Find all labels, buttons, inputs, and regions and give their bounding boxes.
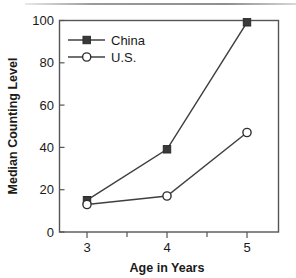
series-us-point [243,128,251,136]
x-axis-tick-labels: 3 4 5 [83,240,250,255]
series-china [83,19,250,204]
legend-marker-square-icon [83,36,90,43]
y-axis-tick-labels: 100 80 60 40 20 0 [32,13,54,240]
legend-item-us: U.S. [68,50,136,65]
legend-label-china: China [111,33,146,48]
y-tick-label: 60 [40,98,54,113]
chart-legend: China U.S. [68,33,146,65]
line-chart-canvas: 100 80 60 40 20 0 3 4 5 Age in Years Med… [0,0,296,278]
x-tick-label: 3 [83,240,90,255]
chart-figure: 100 80 60 40 20 0 3 4 5 Age in Years Med… [0,0,296,278]
y-tick-label: 20 [40,182,54,197]
y-axis-ticks [60,21,65,233]
y-tick-label: 0 [47,225,54,240]
y-tick-label: 100 [32,13,54,28]
x-tick-label: 4 [163,240,170,255]
y-axis-title: Median Counting Level [6,58,20,195]
series-us-point [83,200,91,208]
x-axis-ticks [87,232,247,238]
y-tick-label: 80 [40,55,54,70]
x-tick-label: 5 [243,240,250,255]
series-us-point [163,192,171,200]
legend-item-china: China [68,33,146,48]
series-us [83,128,251,208]
legend-marker-circle-icon [83,53,91,61]
series-china-line [87,22,247,200]
series-china-point [243,19,250,26]
page-rule-decoration [25,3,296,5]
x-axis-title: Age in Years [130,261,205,275]
y-tick-label: 40 [40,140,54,155]
legend-label-us: U.S. [111,50,136,65]
series-china-point [163,146,170,153]
